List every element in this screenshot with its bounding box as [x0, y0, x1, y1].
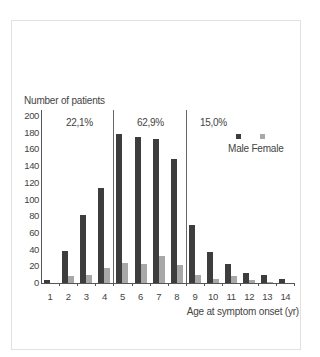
male-bar [80, 215, 86, 283]
x-tick-mark [168, 283, 169, 286]
x-tick-label: 12 [241, 291, 257, 302]
annotation-15-0: 15,0% [200, 117, 227, 128]
annotation-62-9: 62,9% [137, 117, 164, 128]
male-bar [44, 280, 50, 283]
y-tick-label: 0 [22, 278, 39, 288]
x-tick-label: 3 [78, 291, 94, 302]
x-tick-mark [95, 283, 96, 286]
x-axis-label: Age at symptom onset (yr) [187, 306, 299, 317]
female-bar [141, 264, 147, 283]
x-tick-label: 11 [223, 291, 239, 302]
x-tick-label: 1 [42, 291, 58, 302]
female-bar [86, 275, 92, 283]
female-bar [267, 282, 273, 283]
x-tick-mark [294, 283, 295, 286]
x-tick-mark [150, 283, 151, 286]
annotation-22-1: 22,1% [66, 117, 93, 128]
x-tick-label: 6 [133, 291, 149, 302]
y-tick-label: 200 [22, 111, 39, 121]
legend-text: Male Female [228, 143, 284, 154]
x-tick-mark [59, 283, 60, 286]
x-tick-label: 14 [277, 291, 293, 302]
male-bar [135, 137, 141, 283]
y-axis-line [41, 110, 42, 284]
female-bar [231, 276, 237, 283]
female-bar [122, 263, 128, 283]
x-tick-label: 9 [187, 291, 203, 302]
x-tick-label: 2 [60, 291, 76, 302]
x-tick-mark [132, 283, 133, 286]
divider-line-2 [186, 110, 187, 283]
x-tick-label: 13 [259, 291, 275, 302]
female-bar [177, 265, 183, 283]
x-tick-mark [222, 283, 223, 286]
female-bar [68, 276, 74, 283]
female-bar [213, 279, 219, 283]
y-tick-label: 80 [22, 211, 39, 221]
male-bar [116, 134, 122, 283]
female-bar [195, 275, 201, 283]
x-tick-label: 7 [151, 291, 167, 302]
x-tick-label: 5 [114, 291, 130, 302]
y-tick-label: 140 [22, 161, 39, 171]
y-tick-label: 120 [22, 178, 39, 188]
x-tick-label: 10 [205, 291, 221, 302]
y-tick-label: 60 [22, 228, 39, 238]
divider-line-1 [113, 110, 114, 283]
y-tick-label: 40 [22, 245, 39, 255]
female-bar [159, 256, 165, 283]
female-bar [104, 268, 110, 283]
y-tick-label: 180 [22, 128, 39, 138]
x-tick-mark [204, 283, 205, 286]
x-tick-mark [77, 283, 78, 286]
x-tick-mark [186, 283, 187, 286]
x-tick-mark [258, 283, 259, 286]
x-tick-mark [113, 283, 114, 286]
y-tick-label: 100 [22, 195, 39, 205]
legend-female-swatch [260, 134, 265, 139]
y-tick-label: 20 [22, 261, 39, 271]
x-tick-mark [276, 283, 277, 286]
x-tick-mark [240, 283, 241, 286]
y-axis-label: Number of patients [24, 95, 105, 106]
y-tick-label: 160 [22, 144, 39, 154]
male-bar [279, 279, 285, 283]
x-tick-label: 4 [96, 291, 112, 302]
legend-male-swatch [236, 134, 241, 139]
x-tick-label: 8 [169, 291, 185, 302]
female-bar [249, 280, 255, 283]
